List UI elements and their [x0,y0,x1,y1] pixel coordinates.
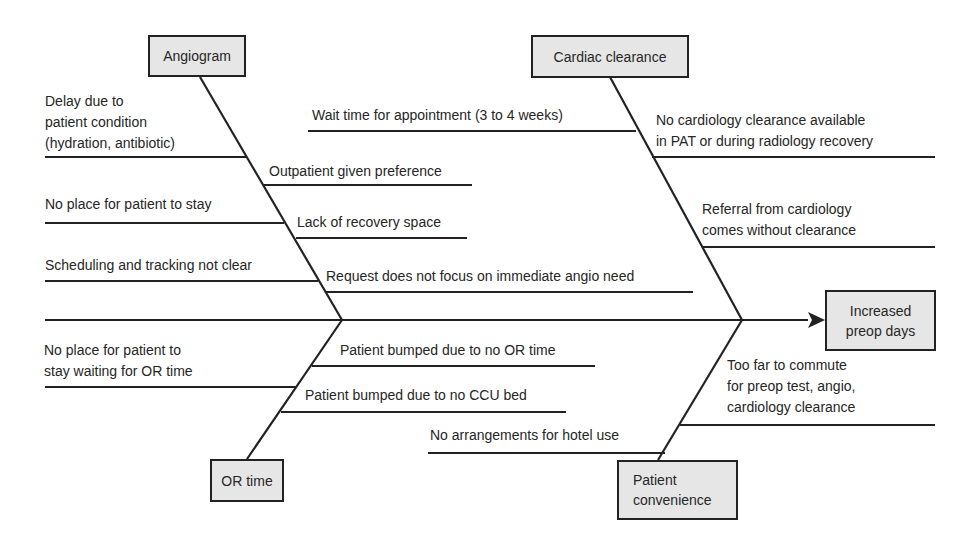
cause-text: No place for patient to [44,340,193,361]
cause-no-place-waiting-or: No place for patient to stay waiting for… [44,340,193,382]
cause-delay-patient-condition: Delay due to patient condition (hydratio… [45,91,175,154]
category-box-patient-convenience: Patient convenience [617,460,738,520]
cause-no-hotel-arrangements: No arrangements for hotel use [430,425,619,446]
cause-text: (hydration, antibiotic) [45,133,175,154]
cause-text: Too far to commute [727,355,855,376]
cause-request-no-focus: Request does not focus on immediate angi… [326,266,634,287]
cause-no-place-to-stay: No place for patient to stay [45,194,212,215]
cause-text: Delay due to [45,91,175,112]
cause-lack-recovery-space: Lack of recovery space [297,212,441,233]
cause-referral-without-clearance: Referral from cardiology comes without c… [702,199,856,241]
cause-bumped-no-ccu-bed: Patient bumped due to no CCU bed [305,385,527,406]
category-label-line1: Patient [633,470,677,490]
cause-text: Referral from cardiology [702,199,856,220]
cause-wait-time-appointment: Wait time for appointment (3 to 4 weeks) [312,105,563,126]
cause-text: for preop test, angio, [727,376,855,397]
cause-text: cardiology clearance [727,397,855,418]
category-box-angiogram: Angiogram [148,35,246,77]
cause-no-cardiology-clearance: No cardiology clearance available in PAT… [656,110,873,152]
cause-text: patient condition [45,112,175,133]
category-box-or-time: OR time [210,459,284,502]
effect-label-line1: Increased [850,301,911,321]
cause-text: comes without clearance [702,220,856,241]
category-label: Angiogram [163,46,231,66]
cause-text: stay waiting for OR time [44,361,193,382]
cause-outpatient-preference: Outpatient given preference [269,161,442,182]
cause-bumped-no-or-time: Patient bumped due to no OR time [340,340,556,361]
cause-text: No cardiology clearance available [656,110,873,131]
cause-too-far-commute: Too far to commute for preop test, angio… [727,355,855,418]
effect-box: Increased preop days [825,290,936,351]
arrowhead-icon [808,312,825,328]
cause-text: in PAT or during radiology recovery [656,131,873,152]
category-label: OR time [221,471,272,491]
category-label-line2: convenience [633,490,712,510]
category-box-cardiac-clearance: Cardiac clearance [531,35,689,78]
category-label: Cardiac clearance [554,47,667,67]
cause-scheduling-tracking: Scheduling and tracking not clear [45,255,252,276]
effect-label-line2: preop days [846,321,915,341]
